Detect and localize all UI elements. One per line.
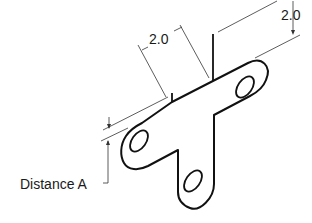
dim-line-left-b: [174, 27, 182, 31]
ext-line-1: [138, 45, 166, 97]
arrowhead-a-bottom: [106, 140, 110, 145]
distance-a-label: Distance A: [20, 176, 88, 192]
ext-line-a-top: [103, 97, 168, 130]
hole-right: [232, 73, 257, 101]
ext-line-4: [255, 35, 300, 58]
ext-line-3: [218, 1, 277, 32]
dimension-label-right: 2.0: [281, 7, 301, 23]
dimension-label-left: 2.0: [149, 31, 169, 47]
plate-outline: [121, 61, 268, 209]
bracket-diagram: 2.0 2.0 Distance A: [0, 0, 312, 223]
ext-line-2: [180, 25, 209, 78]
arrowhead-right: [291, 30, 295, 35]
dim-line-left-a: [142, 47, 148, 50]
hole-bottom: [180, 167, 205, 195]
